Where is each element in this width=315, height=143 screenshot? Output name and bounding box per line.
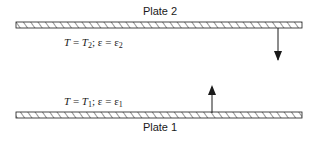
plate-1-label: Plate 1 xyxy=(143,121,177,133)
arrow-down-head xyxy=(274,51,282,61)
plate-1: T = T1; ε = ε1 Plate 1 xyxy=(16,85,302,133)
plate-1-body xyxy=(16,112,302,118)
plate-1-properties: T = T1; ε = ε1 xyxy=(64,95,123,109)
plate-2: Plate 2 T = T2; ε = ε2 xyxy=(16,5,302,61)
arrow-up-head xyxy=(208,85,216,95)
parallel-plates-diagram: Plate 2 T = T2; ε = ε2 T = T1; ε = ε1 Pl… xyxy=(0,0,315,143)
plate-2-properties: T = T2; ε = ε2 xyxy=(64,36,123,50)
plate-2-label: Plate 2 xyxy=(143,5,177,17)
plate-2-body xyxy=(16,22,302,28)
